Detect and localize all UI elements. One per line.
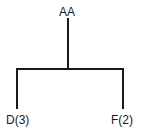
root-stem-line	[67, 18, 69, 70]
horizontal-branch-line	[16, 68, 124, 70]
right-branch-line	[122, 68, 124, 109]
child-node-label-f: F(2)	[111, 114, 133, 126]
child-node-label-d: D(3)	[6, 114, 29, 126]
root-node-label: AA	[59, 6, 75, 18]
left-branch-line	[16, 68, 18, 109]
